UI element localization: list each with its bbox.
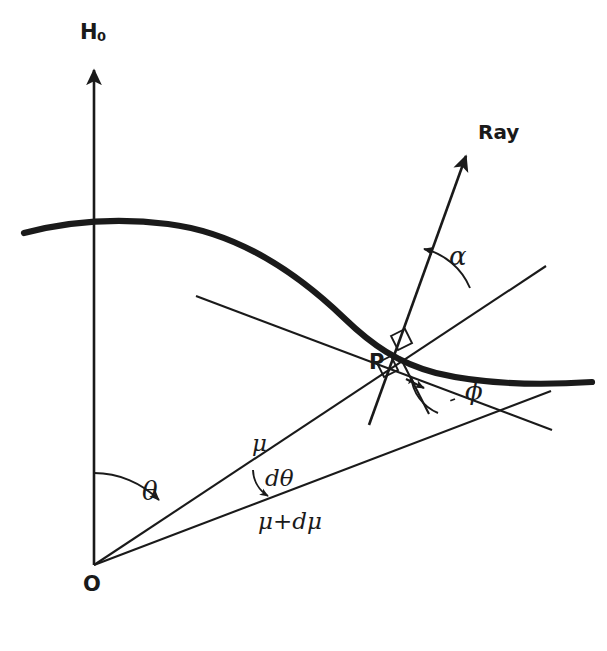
mu-label: μ <box>252 432 267 455</box>
axis-label-h0-main: H <box>80 20 97 44</box>
phi-arc <box>411 376 455 413</box>
mu-dmu-label: μ+dμ <box>258 510 322 533</box>
point-p-label: P <box>369 352 384 373</box>
diagram-canvas <box>0 0 607 651</box>
axis-label-h0-sub: 0 <box>97 29 106 44</box>
ray-label: Ray <box>478 122 519 142</box>
alpha-label: α <box>449 243 467 269</box>
theta-label: θ <box>142 478 158 504</box>
mu-dmu-ray <box>94 391 551 565</box>
axis-label-h0: H0 <box>80 22 106 43</box>
origin-label: O <box>83 574 101 595</box>
phi-label: ϕ <box>465 378 483 404</box>
level-surface-curve <box>24 221 592 384</box>
dtheta-label: dθ <box>265 467 294 490</box>
figure-root: H0 Ray α P ϕ θ μ dθ μ+dμ O <box>0 0 607 651</box>
